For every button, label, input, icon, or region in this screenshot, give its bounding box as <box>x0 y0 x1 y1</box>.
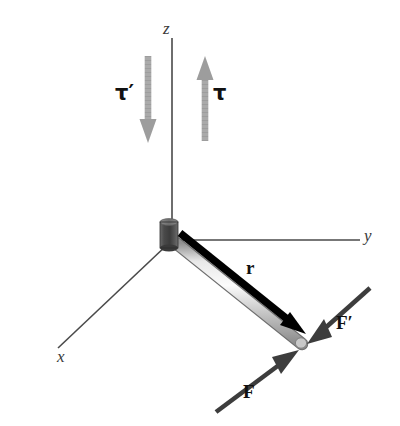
x-axis-label: x <box>57 348 65 365</box>
x-axis-line <box>58 244 168 348</box>
y-axis-label: y <box>364 227 372 244</box>
torque-diagram: z y x τ′ τ r F′ F <box>0 0 400 426</box>
torque-tau-label: τ <box>213 83 226 104</box>
position-vector-r <box>180 233 306 334</box>
force-F-prime-label: F′ <box>336 313 353 332</box>
torque-vector-tau-prime <box>140 56 157 143</box>
force-F-label: F <box>243 382 255 401</box>
torque-vector-tau <box>197 56 214 141</box>
force-vector-F <box>216 350 299 412</box>
pivot-cylinder <box>160 219 178 252</box>
position-vector-r-label: r <box>246 258 254 277</box>
z-axis-label: z <box>163 20 170 37</box>
rod <box>176 243 307 348</box>
torque-tau-prime-label: τ′ <box>115 83 134 104</box>
